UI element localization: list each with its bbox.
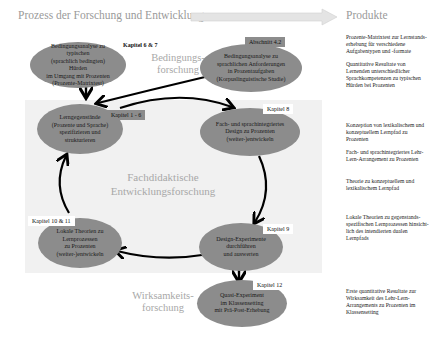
node-line: Design-Experimente — [210, 236, 272, 244]
product-line: Hürden bei Prozenten — [346, 82, 436, 89]
node-line: (Prozente und Sprache) — [46, 122, 114, 130]
product-konzeption-lernpfad: Konzeption von lexikalischem und konzept… — [346, 122, 436, 143]
node-line: zu Prozenten — [50, 243, 109, 251]
node-line: Design zu Prozenten — [210, 128, 290, 136]
chapter-tag: Kapitel 1 - 6 — [107, 110, 145, 120]
node-line: Bedingungsanalyse zu typischen — [36, 43, 120, 58]
product-line: Lernpfads — [346, 235, 436, 242]
chapter-tag: Kapitel 6 & 7 — [119, 40, 162, 50]
node-line: im Klassensetting — [208, 300, 275, 308]
product-line: lich des intendierten dualen — [346, 228, 436, 235]
product-line: Theorie zu konzeptuellem und — [346, 178, 436, 185]
node-line: durchführen — [210, 243, 272, 251]
product-line: erhebung für verschiedene — [346, 41, 436, 48]
node-line: spezifizieren und — [46, 129, 114, 137]
product-line: Klassensetting — [346, 309, 436, 316]
node-line: im Umgang mit Prozenten — [36, 73, 120, 81]
node-line: mit Prä-Post-Erhebung — [208, 307, 275, 315]
node-line: Lernprozessen — [50, 236, 109, 244]
product-line: Wirksamkeit des Lehr-Lern- — [346, 295, 436, 302]
product-line: Sprachkompetenzen zu typischen — [346, 75, 436, 82]
product-theorie-lernpfad: Theorie zu konzeptuellem und lexikalisch… — [346, 178, 436, 192]
node-line: (weiter-)entwickeln — [210, 136, 290, 144]
product-line: Lern-Arrangement zu Prozenten — [346, 156, 436, 163]
node-line: (Prozente-Matrixtest) — [36, 80, 120, 88]
product-line: Prozenten — [346, 136, 436, 143]
node-line: strukturieren — [46, 137, 114, 145]
node-line: Lerngegenstände — [46, 114, 114, 122]
product-line: spezifischen Lernprozessen hinsicht- — [346, 221, 436, 228]
product-line: lexikalischem Lernpfad — [346, 185, 436, 192]
product-line: Prozente-Matrixtest zur Lernstands- — [346, 34, 436, 41]
product-line: Aufgabentypen und -formate — [346, 48, 436, 55]
product-line: Arrangements zu Prozenten im — [346, 302, 436, 309]
product-lehr-lern-arrangement: Fach- und sprachintegriertes Lehr- Lern-… — [346, 149, 436, 163]
chapter-tag: Kapitel 12 — [253, 280, 286, 290]
product-line: konzeptuellem Lernpfad zu — [346, 129, 436, 136]
product-line: Erste quantitative Resultate zur — [346, 288, 436, 295]
node-line: sprachlichen Anforderungen — [211, 61, 292, 69]
chapter-tag: Kapitel 10 & 11 — [28, 216, 75, 226]
chapter-tag: Kapitel 9 — [263, 224, 293, 234]
product-quantitative-resultate: Quantitative Resultate von Lernenden unt… — [346, 61, 436, 89]
chapter-tag: Kapitel 8 — [263, 104, 293, 114]
product-lokale-theorien: Lokale Theorien zu gegenstands- spezifis… — [346, 214, 436, 242]
node-bedingungsanalyse-huerden: Bedingungsanalyse zu typischen (sprachli… — [30, 42, 126, 88]
node-line: Lokale Theorien zu — [50, 228, 109, 236]
node-line: Bedingungsanalyse zu — [211, 53, 292, 61]
product-matrixtest: Prozente-Matrixtest zur Lernstands- erhe… — [346, 34, 436, 55]
node-line: in Prozentaufgaben — [211, 68, 292, 76]
node-line: Quasi-Experiment — [208, 292, 275, 300]
node-line: (sprachlich bedingten) Hürden — [36, 58, 120, 73]
product-line: Konzeption von lexikalischem und — [346, 122, 436, 129]
product-erste-resultate: Erste quantitative Resultate zur Wirksam… — [346, 288, 436, 316]
product-line: Lokale Theorien zu gegenstands- — [346, 214, 436, 221]
node-line: (weiter-)entwickeln — [50, 251, 109, 259]
node-bedingungsanalyse-anforderungen: Bedingungsanalyse zu sprachlichen Anford… — [200, 44, 302, 92]
node-line: und auswerten — [210, 251, 272, 259]
chapter-tag: Abschnitt 4.2 — [245, 37, 285, 47]
product-line: Lernenden unterschiedlicher — [346, 68, 436, 75]
product-line: Fach- und sprachintegriertes Lehr- — [346, 149, 436, 156]
node-line: Fach- und sprachintegriertes — [210, 121, 290, 129]
node-line: (Korpuslinguistische Studie) — [211, 76, 292, 84]
product-line: Quantitative Resultate von — [346, 61, 436, 68]
node-design: Fach- und sprachintegriertes Design zu P… — [200, 108, 300, 156]
